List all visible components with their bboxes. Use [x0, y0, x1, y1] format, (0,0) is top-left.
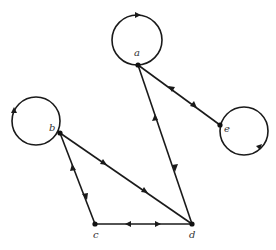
edge-a-d-arrow-up-icon: [152, 114, 158, 121]
node-b: [57, 130, 62, 135]
edge-b-d: [60, 133, 192, 224]
graph-diagram: a b c d e: [0, 0, 276, 250]
node-label-d: d: [189, 229, 195, 240]
loop-b: [12, 97, 60, 145]
edge-c-d-arrow-right-icon: [155, 221, 161, 227]
edge-a-d: [138, 65, 192, 224]
node-a: [135, 62, 140, 67]
node-e: [217, 122, 222, 127]
node-c: [92, 221, 97, 226]
node-label-e: e: [224, 123, 230, 134]
node-d: [189, 221, 194, 226]
loop-a-arrow-icon: [135, 12, 141, 18]
node-label-b: b: [49, 122, 55, 133]
node-label-c: c: [93, 229, 99, 240]
edge-a-e: [138, 65, 220, 125]
edge-b-c: [60, 133, 95, 224]
edge-c-d-arrow-left-icon: [125, 221, 131, 227]
node-label-a: a: [134, 47, 140, 58]
